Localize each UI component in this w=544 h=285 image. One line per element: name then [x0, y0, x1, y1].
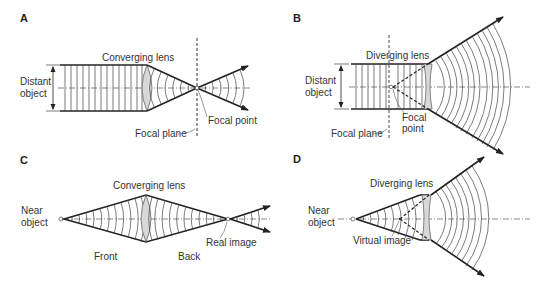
object-label-d-1: Near	[308, 205, 330, 216]
diverging-wavefronts-after-d	[436, 166, 489, 270]
diverging-lens-d	[422, 195, 431, 240]
real-image-point-c	[226, 217, 230, 221]
panel-b: B Diverging lens Distant object Focal po…	[293, 12, 530, 154]
panel-label-b: B	[293, 12, 301, 24]
lens-label-a: Converging lens	[102, 52, 174, 63]
panel-label-c: C	[20, 154, 28, 166]
panel-d: D Diverging lens Near object Virtual ima…	[293, 153, 530, 276]
focal-point-b	[389, 85, 393, 89]
focal-plane-label-a: Focal plane	[135, 128, 187, 139]
object-label-a-2: object	[20, 88, 47, 99]
focal-point-label-a: Focal point	[208, 115, 257, 126]
object-label-a-1: Distant	[20, 76, 51, 87]
panel-label-a: A	[20, 12, 28, 24]
converging-lens-a	[142, 65, 152, 111]
object-label-c-1: Near	[21, 205, 43, 216]
object-label-d-2: object	[308, 217, 335, 228]
optics-diagram: A Converging lens Distant object Focal p…	[0, 0, 544, 285]
panel-c: C Converging lens Near object Real image…	[20, 154, 272, 262]
virtual-image-point-d	[399, 218, 401, 220]
real-image-label-c: Real image	[206, 237, 257, 248]
back-label-c: Back	[178, 251, 201, 262]
lens-label-c: Converging lens	[113, 180, 185, 191]
object-label-c-2: object	[21, 217, 48, 228]
lens-label-b: Diverging lens	[366, 50, 429, 61]
panel-label-d: D	[293, 153, 301, 165]
panel-a: A Converging lens Distant object Focal p…	[20, 12, 257, 139]
lens-label-d: Diverging lens	[370, 178, 433, 189]
focal-point-label-b-1: Focal	[402, 112, 426, 123]
near-object-point-d	[351, 217, 355, 221]
object-label-b-1: Distant	[305, 75, 336, 86]
focal-point-label-b-2: point	[402, 123, 424, 134]
object-label-b-2: object	[305, 87, 332, 98]
focal-point-a	[195, 86, 199, 90]
diverging-lens-b	[424, 64, 432, 109]
front-label-c: Front	[94, 251, 118, 262]
virtual-image-label-d: Virtual image	[353, 235, 412, 246]
